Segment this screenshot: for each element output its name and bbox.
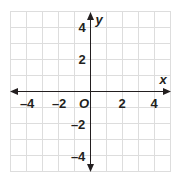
y-axis-label: y [95, 13, 102, 26]
origin-label: O [79, 97, 89, 110]
x-tick-label-neg2: –2 [52, 97, 66, 110]
x-axis-left-arrowhead [10, 88, 18, 95]
x-axis-label: x [159, 73, 166, 86]
coordinate-plane-figure: –4 –2 2 4 4 2 –2 –4 O y x [0, 0, 178, 176]
y-tick-label-neg2: –2 [71, 118, 85, 131]
y-tick-label-2: 2 [78, 53, 85, 66]
y-axis-up-arrowhead [87, 12, 94, 20]
x-tick-label-4: 4 [150, 97, 157, 110]
x-tick-label-2: 2 [118, 97, 125, 110]
x-axis-right-arrowhead [163, 88, 171, 95]
coordinate-grid-svg [0, 0, 178, 176]
y-axis-down-arrowhead [87, 164, 94, 172]
y-tick-label-neg4: –4 [71, 150, 85, 163]
y-tick-label-4: 4 [78, 21, 85, 34]
x-tick-label-neg4: –4 [20, 97, 34, 110]
